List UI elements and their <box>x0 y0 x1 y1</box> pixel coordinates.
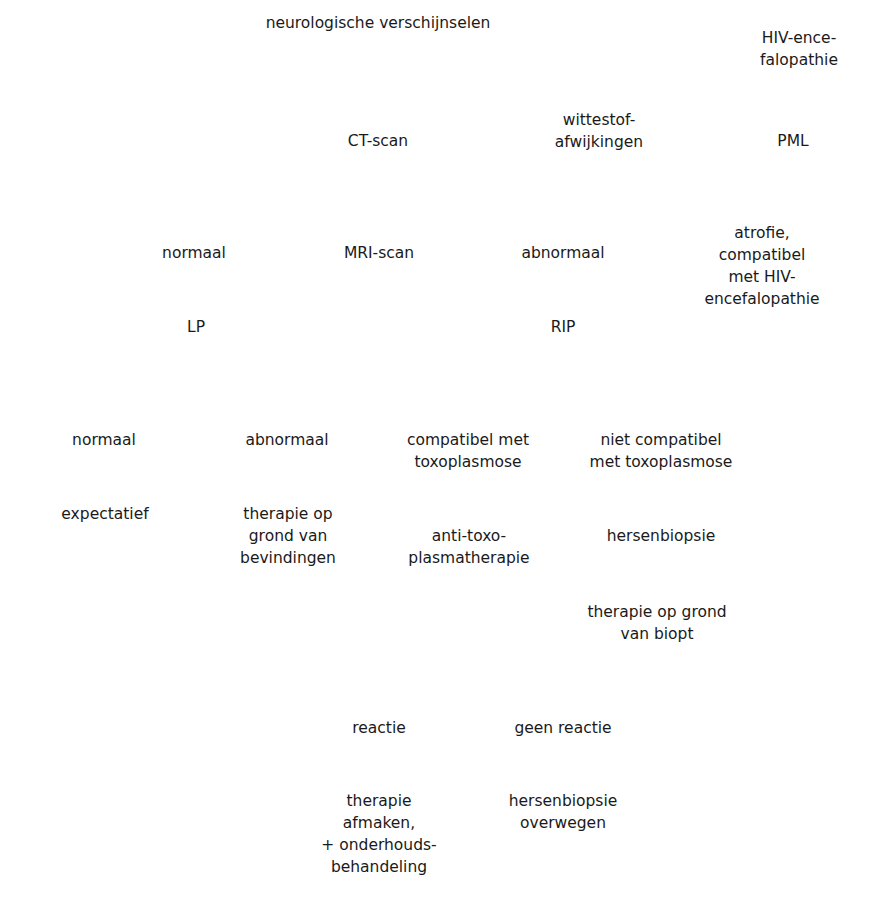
node-hersenbiopsie: hersenbiopsie <box>607 525 716 547</box>
node-compatibel-toxoplasmose: compatibel met toxoplasmose <box>407 429 529 473</box>
node-pml: PML <box>777 130 808 152</box>
node-normaal-ct: normaal <box>162 242 226 264</box>
node-niet-compatibel-toxoplasmose: niet compatibel met toxoplasmose <box>590 429 733 473</box>
node-therapie-afmaken-onderhoudsbehandeling: therapie afmaken, + onderhouds- behandel… <box>321 790 436 878</box>
node-ct-scan: CT-scan <box>348 130 408 152</box>
node-hersenbiopsie-overwegen: hersenbiopsie overwegen <box>509 790 618 834</box>
node-hiv-encefalopathie-top: HIV-ence- falopathie <box>760 27 838 71</box>
node-anti-toxoplasmatherapie: anti-toxo- plasmatherapie <box>408 525 529 569</box>
node-neurologische-verschijnselen: neurologische verschijnselen <box>266 12 491 34</box>
node-atrofie-hiv-encefalopathie: atrofie, compatibel met HIV- encefalopat… <box>701 222 824 310</box>
node-mri-scan: MRI-scan <box>344 242 414 264</box>
node-normaal-lp: normaal <box>72 429 136 451</box>
node-lp: LP <box>187 316 205 338</box>
node-therapie-op-grond-van-biopt: therapie op grond van biopt <box>587 601 726 645</box>
node-therapie-op-grond-van-bevindingen: therapie op grond van bevindingen <box>240 503 336 569</box>
node-geen-reactie: geen reactie <box>514 717 611 739</box>
node-abnormaal-lp: abnormaal <box>245 429 328 451</box>
node-rip: RIP <box>551 316 576 338</box>
node-wittestofafwijkingen: wittestof- afwijkingen <box>555 109 643 153</box>
node-abnormaal-ct: abnormaal <box>521 242 604 264</box>
node-reactie: reactie <box>352 717 406 739</box>
node-expectatief: expectatief <box>61 503 148 525</box>
